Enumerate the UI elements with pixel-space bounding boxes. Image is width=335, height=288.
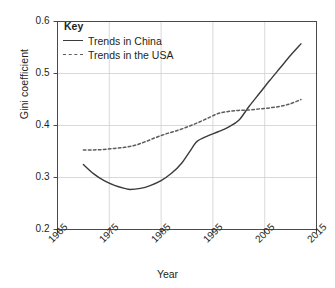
legend-swatch-dashed-line <box>63 50 83 60</box>
y-tick-label: 0.3 <box>20 171 50 182</box>
legend-item-usa[interactable]: Trends in the USA <box>63 48 173 62</box>
legend: Key Trends in China Trends in the USA <box>63 20 173 62</box>
chart-figure: 0.20.30.40.50.6 196519751985199520052015… <box>0 0 335 288</box>
legend-label-usa: Trends in the USA <box>88 49 173 61</box>
legend-title: Key <box>64 20 173 32</box>
y-tick-label: 0.2 <box>20 223 50 234</box>
legend-swatch-solid-line <box>63 36 83 46</box>
series-line-usa <box>83 100 301 150</box>
series-line-china <box>83 44 301 190</box>
legend-item-china[interactable]: Trends in China <box>63 34 173 48</box>
legend-label-china: Trends in China <box>88 35 162 47</box>
data-series-layer <box>83 44 301 190</box>
y-axis-title: Gini coefficient <box>18 24 30 144</box>
x-axis-title: Year <box>0 268 335 280</box>
